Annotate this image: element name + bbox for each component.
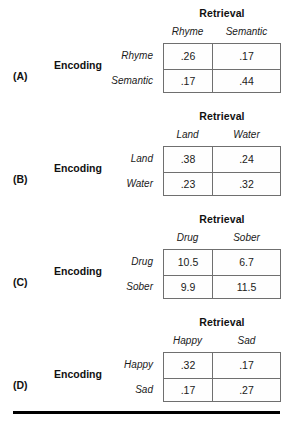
table-cell: .17 — [164, 70, 212, 92]
table-row: .23 .32 — [164, 172, 280, 195]
data-matrix: .26 .17 .17 .44 — [163, 43, 281, 93]
row-headers: Rhyme Semantic — [96, 43, 158, 93]
row-header: Land — [96, 146, 158, 171]
table-row: .17 .27 — [164, 378, 280, 401]
table-row: .38 .24 — [164, 147, 280, 172]
column-header: Drug — [163, 230, 212, 245]
table-cell: .23 — [164, 173, 212, 195]
row-header: Sad — [96, 377, 158, 402]
table-row: 9.9 11.5 — [164, 275, 280, 298]
table-cell: .17 — [212, 44, 280, 69]
table-row: .32 .17 — [164, 353, 280, 378]
table-row: 10.5 6.7 — [164, 250, 280, 275]
panel-a: Retrieval Rhyme Semantic Encoding Rhyme … — [0, 0, 286, 100]
column-group-label: Retrieval — [163, 213, 281, 225]
column-header: Happy — [163, 333, 212, 348]
column-header: Sad — [212, 333, 281, 348]
column-group-label: Retrieval — [163, 316, 281, 328]
table-cell: .26 — [164, 44, 212, 69]
table-cell: .32 — [164, 353, 212, 378]
bottom-divider — [13, 411, 280, 414]
column-headers: Land Water — [163, 127, 281, 142]
column-header: Rhyme — [163, 24, 212, 39]
row-headers: Happy Sad — [96, 352, 158, 402]
row-header: Drug — [96, 249, 158, 274]
data-matrix: .38 .24 .23 .32 — [163, 146, 281, 196]
row-header: Water — [96, 171, 158, 196]
column-headers: Happy Sad — [163, 333, 281, 348]
table-row: .17 .44 — [164, 69, 280, 92]
table-cell: 10.5 — [164, 250, 212, 275]
panel-c: Retrieval Drug Sober Encoding Drug Sober… — [0, 206, 286, 306]
table-cell: 6.7 — [212, 250, 280, 275]
column-header: Land — [163, 127, 212, 142]
panel-label: (B) — [13, 173, 28, 185]
column-group-label: Retrieval — [163, 7, 281, 19]
panel-d: Retrieval Happy Sad Encoding Happy Sad (… — [0, 309, 286, 409]
panel-label: (A) — [13, 70, 28, 82]
row-headers: Drug Sober — [96, 249, 158, 299]
column-header: Semantic — [212, 24, 281, 39]
row-header: Semantic — [96, 68, 158, 93]
table-cell: .27 — [212, 379, 280, 401]
table-cell: .17 — [164, 379, 212, 401]
table-cell: 11.5 — [212, 276, 280, 298]
row-header: Sober — [96, 274, 158, 299]
figure-container: Retrieval Rhyme Semantic Encoding Rhyme … — [0, 0, 286, 424]
column-header: Water — [212, 127, 281, 142]
data-matrix: .32 .17 .17 .27 — [163, 352, 281, 402]
panel-b: Retrieval Land Water Encoding Land Water… — [0, 103, 286, 203]
panel-label: (C) — [13, 276, 28, 288]
table-cell: 9.9 — [164, 276, 212, 298]
data-matrix: 10.5 6.7 9.9 11.5 — [163, 249, 281, 299]
row-headers: Land Water — [96, 146, 158, 196]
column-headers: Rhyme Semantic — [163, 24, 281, 39]
table-cell: .24 — [212, 147, 280, 172]
table-cell: .17 — [212, 353, 280, 378]
row-header: Rhyme — [96, 43, 158, 68]
column-header: Sober — [212, 230, 281, 245]
table-row: .26 .17 — [164, 44, 280, 69]
panel-label: (D) — [13, 379, 28, 391]
table-cell: .38 — [164, 147, 212, 172]
table-cell: .32 — [212, 173, 280, 195]
row-header: Happy — [96, 352, 158, 377]
column-headers: Drug Sober — [163, 230, 281, 245]
column-group-label: Retrieval — [163, 110, 281, 122]
table-cell: .44 — [212, 70, 280, 92]
